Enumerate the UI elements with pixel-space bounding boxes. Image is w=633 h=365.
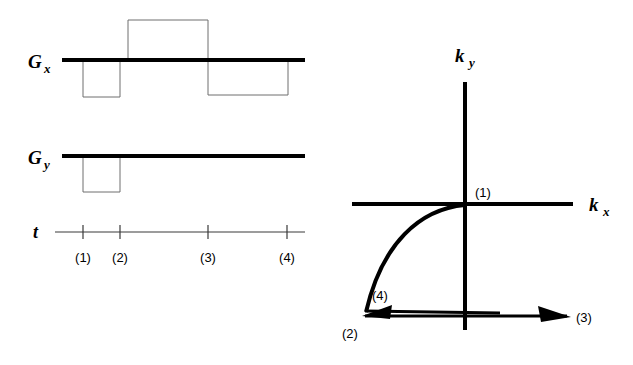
- kspace-point-label-1: (1): [475, 185, 491, 200]
- ky-axis-label-subscript: y: [467, 55, 475, 70]
- gradient-waveform-panel: G x G y t: [28, 20, 305, 265]
- gy-negative-phase-encode-lobe: [83, 156, 120, 192]
- time-axis-label: t: [33, 222, 39, 242]
- time-axis-group: t (1) (2) (3) (4): [33, 222, 305, 265]
- time-tick-label-2: (2): [112, 250, 128, 265]
- gx-negative-prephase-lobe: [83, 60, 120, 97]
- figure-root: G x G y t: [0, 0, 633, 365]
- time-tick-label-4: (4): [279, 250, 295, 265]
- gx-negative-rewind-lobe: [208, 60, 288, 95]
- kx-axis-label-subscript: x: [602, 204, 610, 219]
- gx-axis-label-subscript: x: [43, 61, 51, 76]
- kspace-point-label-2: (2): [342, 326, 358, 341]
- gy-axis-label-subscript: y: [42, 157, 50, 172]
- kspace-point-label-3: (3): [576, 310, 592, 325]
- time-tick-label-3: (3): [200, 250, 216, 265]
- gx-axis-label: G: [28, 51, 42, 72]
- kx-axis-label: k: [589, 194, 599, 215]
- kspace-panel: k y k x (1) (2) (3) (4): [342, 45, 610, 341]
- gx-positive-readout-lobe: [128, 20, 208, 60]
- gy-axis-label: G: [28, 147, 42, 168]
- kspace-arrow-right-icon: [538, 306, 571, 322]
- time-tick-label-1: (1): [75, 250, 91, 265]
- ky-axis-label: k: [455, 45, 465, 66]
- figure-canvas: G x G y t: [0, 0, 633, 365]
- gy-waveform-group: G y: [28, 147, 305, 192]
- gx-waveform-group: G x: [28, 20, 305, 97]
- kspace-point-label-4: (4): [372, 288, 388, 303]
